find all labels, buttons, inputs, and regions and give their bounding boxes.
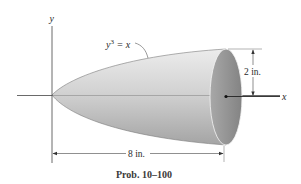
figure-caption: Prob. 10–100: [116, 169, 172, 180]
length-dimension-label: 8 in.: [128, 149, 145, 159]
center-point: [224, 95, 227, 98]
curve-leader-line: [135, 43, 148, 58]
paraboloid-solid: [52, 49, 226, 145]
paraboloid-diagram: y x y3 = x 2 in. 8 in. Prob. 10–100: [0, 0, 301, 184]
x-axis-label: x: [281, 91, 287, 102]
curve-eq-rest: = x: [114, 39, 131, 50]
radius-dimension-label: 2 in.: [244, 67, 261, 77]
curve-equation-label: y3 = x: [105, 38, 131, 50]
length-arrow-right: [219, 152, 224, 155]
length-arrow-left: [53, 152, 58, 155]
radius-arrow-top: [251, 50, 254, 55]
y-axis-label: y: [49, 13, 55, 24]
